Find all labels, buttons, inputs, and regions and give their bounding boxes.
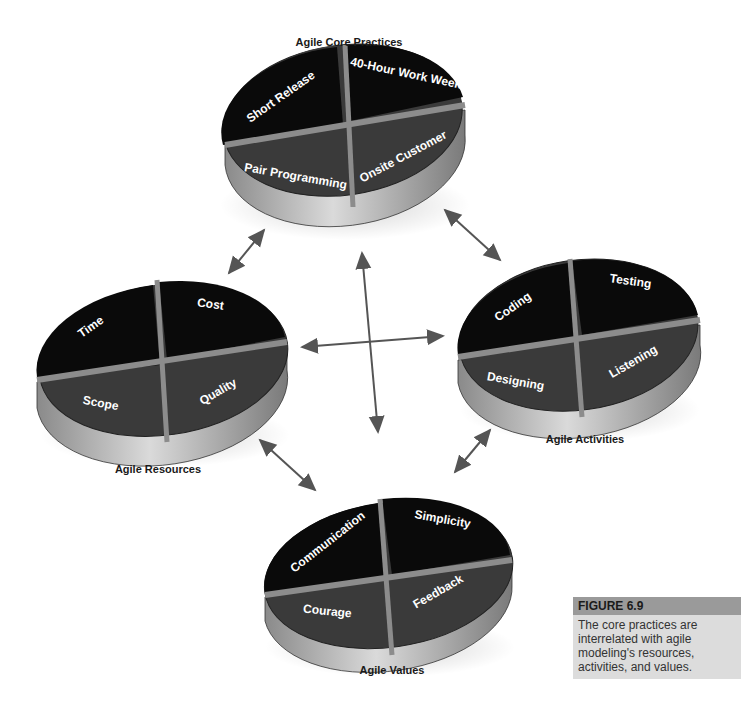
title-values: Agile Values: [360, 664, 425, 676]
pie-values: Communication Simplicity Courage Feedbac…: [255, 486, 523, 677]
pie-core-practices: Short Release 40-Hour Work Week Pair Pro…: [214, 29, 473, 240]
arrow-activities-values: [455, 430, 490, 472]
figure-caption-box: FIGURE 6.9 The core practices are interr…: [573, 597, 741, 679]
title-resources: Agile Resources: [115, 463, 201, 475]
title-activities: Agile Activities: [546, 433, 624, 445]
title-core-practices: Agile Core Practices: [296, 36, 403, 48]
figure-number: FIGURE 6.9: [573, 597, 741, 615]
arrow-resources-activities: [302, 336, 443, 347]
figure-caption-text: The core practices are interrelated with…: [573, 615, 741, 679]
pie-resources: Time Cost Scope Quality: [29, 268, 297, 467]
pie-activities: Coding Testing Designing Listening: [449, 244, 708, 442]
arrow-core-resources: [229, 230, 264, 273]
